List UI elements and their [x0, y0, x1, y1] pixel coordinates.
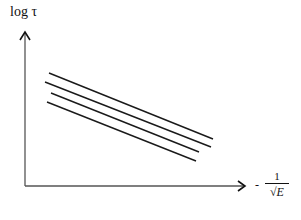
x-axis-label-fraction: 1 √E	[265, 170, 289, 199]
data-line-3	[51, 93, 199, 152]
x-axis-label-sign: -	[255, 178, 259, 193]
data-line-4	[47, 102, 196, 161]
y-axis-label: log τ	[10, 4, 37, 20]
data-line-2	[45, 82, 211, 147]
data-line-1	[49, 73, 213, 139]
fraction-bar	[265, 183, 289, 184]
x-axis-label-denominator: √E	[265, 185, 289, 199]
x-axis-label-numerator: 1	[265, 170, 289, 182]
